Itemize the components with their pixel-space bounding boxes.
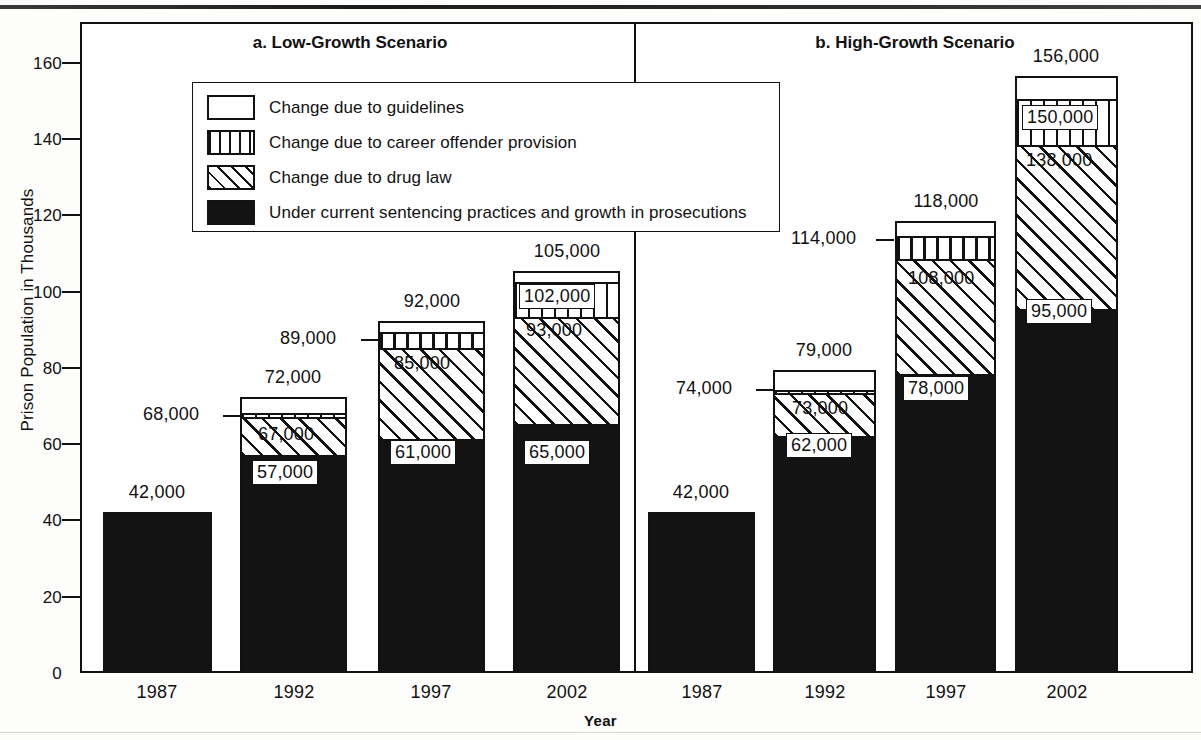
bar-drug-label-low-2002: 93,000 [524, 320, 584, 341]
y-tick-label-40: 40 [10, 512, 62, 529]
y-tick-label-20: 20 [10, 589, 62, 606]
y-tick-mark-140 [62, 138, 80, 140]
bar-total-label-low-2002: 105,000 [487, 241, 647, 262]
x-tick-label-low-2002: 2002 [507, 682, 627, 703]
y-tick-label-140: 140 [10, 131, 62, 148]
bar-segment-guidelines [513, 271, 620, 282]
x-tick-label-low-1987: 1987 [97, 682, 217, 703]
y-tick-mark-120 [62, 214, 80, 216]
legend-label-career-offender: Change due to career offender provision [269, 133, 577, 153]
x-tick-label-high-1987: 1987 [642, 682, 762, 703]
bar-segment-career [895, 236, 996, 259]
leader-line-low-1992 [223, 415, 241, 417]
y-tick-label-100: 100 [10, 284, 62, 301]
legend-label-current-practices: Under current sentencing practices and g… [269, 203, 747, 223]
y-tick-mark-80 [62, 367, 80, 369]
x-tick-label-low-1997: 1997 [371, 682, 491, 703]
open-swatch-icon [207, 95, 255, 120]
bar-career-label-high-1997: 114,000 [791, 228, 856, 249]
chart-legend: Change due to guidelines Change due to c… [192, 82, 780, 232]
y-tick-label-0: 0 [10, 665, 62, 682]
bar-base-label-high-1992: 62,000 [786, 433, 852, 458]
bar-career-label-high-1992: 74,000 [676, 378, 732, 399]
bar-segment-base [378, 439, 485, 673]
bar-total-label-low-1997: 92,000 [352, 291, 512, 312]
bar-segment-base [240, 455, 347, 673]
bar-segment-guidelines [240, 397, 347, 413]
bar-base-label-low-2002: 65,000 [524, 440, 590, 465]
bar-base-label-low-1997: 61,000 [390, 440, 456, 465]
bar-segment-career [378, 332, 485, 348]
bar-drug-label-low-1997: 85,000 [392, 353, 452, 374]
legend-label-drug-law: Change due to drug law [269, 168, 452, 188]
scan-top-rule [0, 5, 1201, 9]
bar-drug-label-high-1992: 73,000 [790, 398, 850, 419]
bar-high-1987[interactable] [648, 512, 755, 673]
x-tick-label-low-1992: 1992 [234, 682, 354, 703]
bar-drug-label-low-1992: 67,000 [256, 424, 316, 445]
bar-segment-base [1015, 309, 1118, 673]
legend-item-career-offender: Change due to career offender provision [207, 126, 779, 159]
bar-career-label-low-2002: 102,000 [519, 284, 595, 309]
bar-total-label-low-1987: 42,000 [77, 482, 237, 503]
leader-line-high-1997 [876, 239, 894, 241]
y-tick-mark-100 [62, 291, 80, 293]
bar-total-label-high-1997: 118,000 [866, 191, 1026, 212]
legend-label-guidelines: Change due to guidelines [269, 98, 464, 118]
legend-item-current-practices: Under current sentencing practices and g… [207, 196, 779, 229]
bar-drug-label-high-2002: 138,000 [1024, 150, 1094, 171]
y-tick-mark-160 [62, 62, 80, 64]
y-tick-label-80: 80 [10, 360, 62, 377]
bar-career-label-high-2002: 150,000 [1022, 105, 1098, 130]
bar-segment-base [895, 374, 996, 673]
x-tick-label-high-1997: 1997 [886, 682, 1006, 703]
x-tick-label-high-2002: 2002 [1007, 682, 1127, 703]
bar-total-label-high-1992: 79,000 [744, 340, 904, 361]
bar-segment-base [103, 512, 212, 673]
bar-segment-base [773, 436, 876, 673]
x-tick-label-high-1992: 1992 [765, 682, 885, 703]
y-tick-mark-20 [62, 596, 80, 598]
scan-bottom-rule [0, 732, 1201, 733]
figure-canvas: Prison Population in Thousands 160 140 1… [0, 0, 1201, 740]
leader-line-low-1997 [361, 339, 379, 341]
vertical-hatch-swatch-icon [207, 130, 255, 155]
bar-drug-label-high-1997: 108,000 [906, 268, 976, 289]
bar-base-label-high-2002: 95,000 [1026, 299, 1092, 324]
bar-total-label-high-2002: 156,000 [986, 46, 1146, 67]
bar-segment-guidelines [1015, 76, 1118, 99]
leader-line-high-1992 [756, 389, 774, 391]
y-tick-label-160: 160 [10, 55, 62, 72]
bar-low-1987[interactable] [103, 512, 212, 673]
y-tick-label-120: 120 [10, 207, 62, 224]
y-tick-label-60: 60 [10, 436, 62, 453]
y-tick-mark-40 [62, 519, 80, 521]
bar-segment-guidelines [895, 221, 996, 236]
bar-base-label-high-1997: 78,000 [903, 376, 969, 401]
bar-segment-base [648, 512, 755, 673]
bar-segment-guidelines [773, 370, 876, 390]
bar-base-label-low-1992: 57,000 [252, 460, 318, 485]
y-tick-mark-60 [62, 443, 80, 445]
bar-career-label-low-1992: 68,000 [143, 404, 199, 425]
legend-item-drug-law: Change due to drug law [207, 161, 779, 194]
bar-career-label-low-1997: 89,000 [280, 328, 336, 349]
panel-title-low-growth: a. Low-Growth Scenario [140, 33, 560, 53]
bar-total-label-low-1992: 72,000 [213, 367, 373, 388]
bar-segment-guidelines [378, 321, 485, 332]
diagonal-hatch-swatch-icon [207, 165, 255, 190]
legend-item-guidelines: Change due to guidelines [207, 91, 779, 124]
solid-black-swatch-icon [207, 200, 255, 225]
x-axis-title: Year [0, 712, 1201, 729]
bar-total-label-high-1987: 42,000 [621, 482, 781, 503]
